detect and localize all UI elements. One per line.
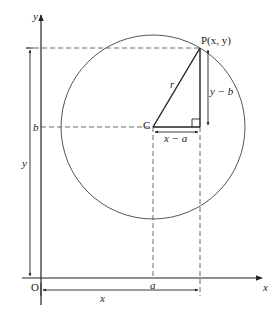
x-axis-label: x — [262, 281, 268, 293]
x-span-label: x — [99, 292, 105, 304]
b-tick-label: b — [33, 121, 39, 133]
diagram-canvas: y x O P(x, y) C r y − b x − a b a y x — [0, 0, 276, 317]
y-axis-label: y — [32, 10, 38, 22]
radius-label: r — [170, 78, 175, 90]
circle-diagram: y x O P(x, y) C r y − b x − a b a y x — [0, 0, 276, 317]
point-p-label: P(x, y) — [201, 34, 231, 47]
radius-line — [153, 48, 200, 127]
origin-label: O — [31, 281, 39, 293]
y-span-label: y — [21, 157, 27, 169]
x-minus-a-label: x − a — [163, 132, 188, 144]
y-minus-b-label: y − b — [209, 85, 234, 97]
right-angle-mark — [192, 119, 200, 127]
a-tick-label: a — [150, 279, 156, 291]
center-c-label: C — [143, 119, 150, 131]
